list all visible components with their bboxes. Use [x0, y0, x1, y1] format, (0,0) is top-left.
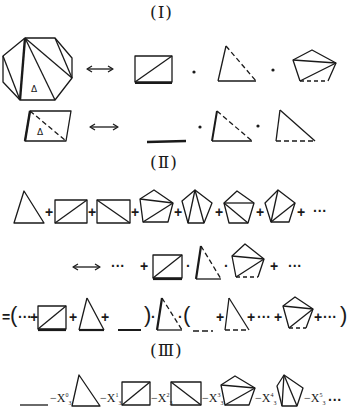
square-diag-down-icon [171, 382, 201, 405]
plus-sign: + [247, 310, 255, 324]
pentagon-fan-b-icon [277, 375, 303, 406]
triangle-dashed-icon [212, 111, 252, 141]
plus-sign: + [140, 259, 148, 273]
triangle-icon [72, 375, 100, 406]
pentagon-triangulated-icon [283, 297, 313, 328]
double-arrow-icon [90, 124, 118, 130]
close-paren: ) [340, 304, 347, 326]
quad-dashed-diagonal-icon [25, 111, 71, 141]
pentagon-fan-a-icon [221, 376, 255, 405]
plus-sign: + [314, 310, 322, 324]
series-term-1: −X13 [100, 392, 121, 406]
plus-sign: + [88, 205, 96, 219]
plus-sign: + [274, 310, 282, 324]
plus-sign: + [216, 310, 224, 324]
square-diagonal-icon [153, 255, 182, 279]
ellipsis: ··· [111, 259, 125, 273]
square-diag-down-icon [97, 200, 130, 223]
triangle-dashed-base-icon [276, 110, 315, 141]
ellipsis: ··· [323, 310, 337, 324]
dot-operator: · [178, 310, 183, 324]
edge-segment-icon [147, 141, 186, 142]
plus-sign: + [131, 205, 139, 219]
plus-sign: + [30, 310, 38, 324]
pentagon-fan-b-icon [182, 190, 212, 223]
double-arrow-icon [87, 66, 113, 72]
open-paren: ( [183, 304, 190, 326]
ellipsis: ··· [313, 204, 327, 218]
delta-marker-icon: Δ [37, 127, 44, 137]
delta-marker-icon: Δ [31, 84, 38, 94]
dot-icon [192, 70, 195, 73]
square-diagonal-icon [135, 56, 172, 83]
series-term-3: −X33 [202, 392, 223, 406]
pentagon-triangulated-icon [293, 50, 336, 81]
series-term-0: −X03 [50, 392, 71, 406]
plus-sign: + [297, 205, 305, 219]
dot-operator: · [224, 259, 229, 273]
plus-sign: + [69, 310, 77, 324]
pentagon-triangulated-icon [232, 244, 264, 277]
triangle-dashed-base-icon [225, 298, 249, 330]
open-paren: ( [10, 304, 17, 326]
series-term-4: −X43 [255, 392, 276, 406]
square-diagonal-icon [38, 306, 66, 330]
ellipsis: ··· [328, 393, 342, 407]
plus-sign: + [270, 259, 278, 273]
pentagon-fan-c-icon [224, 191, 254, 223]
dot-operator: · [186, 259, 191, 273]
double-arrow-icon [73, 264, 100, 270]
dot-operator: · [151, 310, 156, 324]
dot-icon [198, 125, 201, 128]
ellipsis: ··· [288, 259, 302, 273]
square-diag-up-icon [55, 200, 87, 223]
plus-sign: + [101, 310, 109, 324]
dot-icon [271, 68, 274, 71]
ellipsis: ··· [257, 310, 271, 324]
triangle-dashed-icon [196, 246, 221, 279]
series-term-2: −X23 [151, 392, 172, 406]
triangle-dashed-icon [218, 46, 256, 81]
series-term-5: −X53 [304, 392, 325, 406]
plus-sign: + [215, 205, 223, 219]
equals-sign: = [2, 310, 10, 324]
plus-sign: + [45, 205, 53, 219]
triangle-icon [14, 191, 44, 223]
plus-sign: + [256, 205, 264, 219]
pentagon-fan-a-icon [140, 190, 173, 222]
octagon-triangulation-icon [3, 38, 72, 100]
dot-icon [256, 124, 259, 127]
square-diag-up-icon [122, 382, 150, 405]
plus-sign: + [174, 205, 182, 219]
pentagon-fan-d-icon [265, 190, 295, 222]
